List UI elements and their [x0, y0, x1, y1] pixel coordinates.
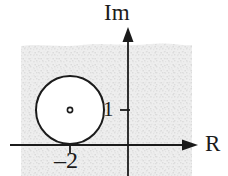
imaginary-axis-label: Im [104, 1, 130, 24]
circle-center-dot [67, 107, 72, 112]
real-axis-label: R [205, 132, 220, 155]
tick-label-real-minus-two: –2 [54, 148, 78, 172]
figure-canvas [0, 0, 228, 176]
shaded-region [0, 0, 228, 176]
complex-plane-figure: Im R 1 –2 [0, 0, 228, 176]
tick-label-imaginary-one: 1 [103, 99, 114, 120]
